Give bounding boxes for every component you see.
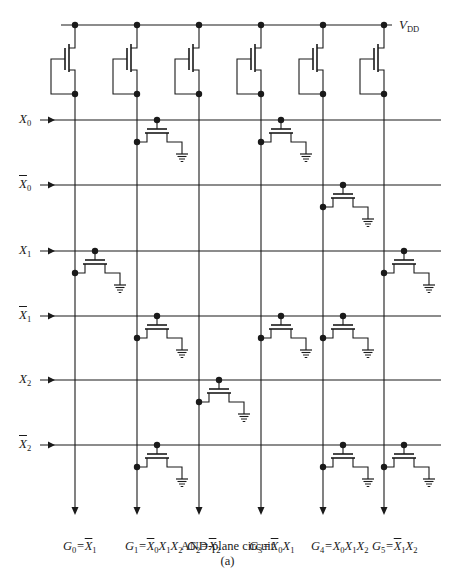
source-lead [353, 458, 368, 479]
arrow-down-icon [134, 507, 141, 515]
output-line-5 [381, 94, 388, 515]
load-drain [131, 25, 137, 48]
output-lines [72, 94, 388, 515]
pulldown-transistor-4 [381, 248, 435, 293]
load-source [255, 70, 261, 94]
source-lead [291, 329, 306, 350]
source-lead [229, 393, 244, 414]
output-line-4 [320, 94, 327, 515]
ground-icon [176, 154, 188, 162]
ground-icon [176, 479, 188, 487]
arrow-right-icon [48, 117, 55, 124]
ground-icon [300, 154, 312, 162]
pulldown-transistor-2 [320, 182, 374, 227]
arrow-right-icon [48, 377, 55, 384]
figure-caption: AND-plane circuit (a) [0, 539, 455, 569]
pulldown-transistor-1 [258, 117, 312, 162]
input-line-2 [40, 248, 441, 255]
load-source [317, 70, 323, 94]
output-line-1 [134, 94, 141, 515]
load-drain [378, 25, 384, 48]
load-transistor-1 [113, 22, 140, 97]
load-transistor-5 [360, 22, 387, 97]
drain-junction-dot [320, 464, 326, 470]
drain-junction-dot [381, 464, 387, 470]
drain-junction-dot [258, 139, 264, 145]
pulldown-transistor-10 [320, 442, 374, 487]
load-transistor-4 [299, 22, 326, 97]
load-gate-tie [237, 59, 261, 94]
arrow-down-icon [196, 507, 203, 515]
pulldown-transistor-11 [381, 442, 435, 487]
input-label-3: X1 [19, 307, 31, 324]
ground-icon [362, 479, 374, 487]
load-transistor-0 [51, 22, 78, 97]
load-gate-tie [299, 59, 323, 94]
output-line-2 [196, 94, 203, 515]
source-lead [167, 329, 182, 350]
arrow-down-icon [320, 507, 327, 515]
arrow-down-icon [258, 507, 265, 515]
load-drain [317, 25, 323, 48]
arrow-right-icon [48, 442, 55, 449]
arrow-right-icon [48, 313, 55, 320]
pulldown-transistor-8 [196, 377, 250, 422]
load-drain [255, 25, 261, 48]
input-label-5: X2 [19, 436, 31, 453]
ground-icon [300, 350, 312, 358]
input-label-1: X0 [19, 176, 31, 193]
drain-junction-dot [320, 335, 326, 341]
input-line-1 [40, 182, 441, 189]
drain-junction-dot [134, 139, 140, 145]
load-gate-tie [51, 59, 75, 94]
drain-junction-dot [134, 335, 140, 341]
load-transistor-3 [237, 22, 264, 97]
drain-junction-dot [381, 270, 387, 276]
ground-icon [362, 219, 374, 227]
arrow-down-icon [72, 507, 79, 515]
drain-junction-dot [134, 464, 140, 470]
input-label-4: X2 [19, 371, 31, 388]
arrow-down-icon [381, 507, 388, 515]
ground-icon [238, 414, 250, 422]
load-drain [193, 25, 199, 48]
pullup-load-transistors [51, 22, 387, 97]
source-lead [414, 264, 429, 285]
arrow-right-icon [48, 182, 55, 189]
ground-icon [423, 285, 435, 293]
caption-subtitle: (a) [0, 554, 455, 569]
output-line-3 [258, 94, 265, 515]
pulldown-transistor-5 [134, 313, 188, 358]
caption-title: AND-plane circuit [0, 539, 455, 554]
input-lines [40, 117, 441, 449]
load-source [69, 70, 75, 94]
supply-label: VDD [399, 17, 419, 34]
input-line-4 [40, 377, 441, 384]
arrow-right-icon [48, 248, 55, 255]
load-gate-tie [175, 59, 199, 94]
source-lead [105, 264, 120, 285]
source-lead [353, 329, 368, 350]
pulldown-transistor-3 [72, 248, 126, 293]
load-transistor-2 [175, 22, 202, 97]
drain-junction-dot [320, 204, 326, 210]
pulldown-transistor-7 [320, 313, 374, 358]
ground-icon [114, 285, 126, 293]
source-lead [167, 458, 182, 479]
pulldown-transistor-6 [258, 313, 312, 358]
load-drain [69, 25, 75, 48]
load-gate-tie [360, 59, 384, 94]
input-line-0 [40, 117, 441, 124]
drain-junction-dot [196, 399, 202, 405]
input-label-0: X0 [19, 111, 31, 128]
input-label-2: X1 [19, 242, 31, 259]
ground-icon [362, 350, 374, 358]
drain-junction-dot [72, 270, 78, 276]
input-line-3 [40, 313, 441, 320]
pulldown-transistor-0 [134, 117, 188, 162]
source-lead [414, 458, 429, 479]
load-source [131, 70, 137, 94]
pulldown-transistor-9 [134, 442, 188, 487]
source-lead [291, 133, 306, 154]
input-line-5 [40, 442, 441, 449]
